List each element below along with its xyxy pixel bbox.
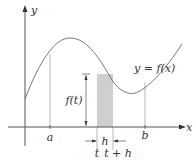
h-left-arrow-icon	[92, 140, 97, 143]
f-t-down-arrow-icon	[85, 121, 88, 126]
point-b-label: b	[141, 129, 148, 142]
point-t-plus-h-label: t + h	[104, 147, 132, 160]
h-right-arrow-icon	[113, 140, 118, 143]
f-t-up-arrow-icon	[85, 75, 88, 80]
shaded-strip	[97, 74, 113, 127]
height-label: f(t)	[64, 94, 82, 107]
curve-label: y = f(x)	[133, 62, 175, 75]
y-axis-label: y	[30, 4, 38, 17]
x-axis-label: x	[186, 121, 193, 134]
y-axis-arrow-icon	[23, 5, 28, 12]
point-t-label: t	[95, 147, 100, 160]
diagram-canvas: y x y = f(x) f(t) a b h t t + h	[0, 0, 194, 161]
point-a-label: a	[47, 131, 54, 144]
x-axis-arrow-icon	[179, 125, 186, 130]
